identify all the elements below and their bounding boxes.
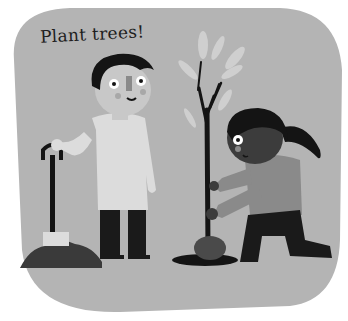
boy-shirt [92, 113, 156, 210]
boy-trousers-left [100, 210, 120, 255]
illustration: Plant trees! [0, 0, 348, 321]
girl-shirt [245, 155, 302, 215]
soil-ball [194, 236, 226, 260]
scene-svg [0, 0, 348, 321]
boy-trousers-right [128, 210, 146, 255]
